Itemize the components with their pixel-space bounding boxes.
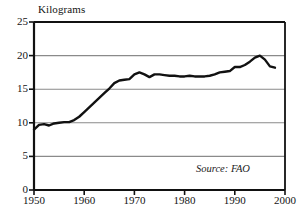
y-tick-label-text: 20 xyxy=(4,50,28,61)
y-tick-label: 20 xyxy=(0,50,28,61)
y-tick-label-text: 25 xyxy=(4,16,28,27)
y-tick-label-text: 15 xyxy=(4,83,28,94)
x-tick-label: 2000 xyxy=(263,194,307,206)
x-tick-label: 1950 xyxy=(12,194,56,206)
x-tick-label: 1990 xyxy=(213,194,257,206)
y-tick-label: 5 xyxy=(0,150,28,161)
chart-container: Kilograms 0510152025 1950196019701980199… xyxy=(0,0,308,217)
x-tick-label: 1980 xyxy=(163,194,207,206)
source-annotation: Source: FAO xyxy=(196,163,250,174)
x-tick-label: 1960 xyxy=(62,194,106,206)
data-series-line xyxy=(34,56,275,130)
y-tick-label: 15 xyxy=(0,83,28,94)
y-tick-label-text: 5 xyxy=(4,150,28,161)
y-tick-label: 25 xyxy=(0,16,28,27)
x-tick-label: 1970 xyxy=(112,194,156,206)
y-tick-label: 10 xyxy=(0,117,28,128)
y-tick-label-text: 10 xyxy=(4,117,28,128)
chart-plot-area xyxy=(0,0,308,217)
